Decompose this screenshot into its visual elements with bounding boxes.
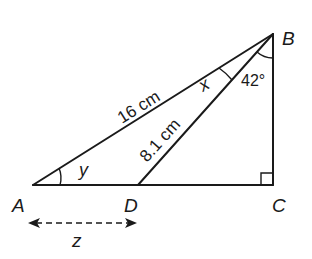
length-label-ab: 16 cm: [114, 87, 163, 128]
angle-label-y: y: [77, 160, 89, 180]
segment-db: [138, 34, 273, 185]
side-ab: [33, 34, 273, 185]
point-label-d: D: [124, 195, 138, 216]
triangle-diagram: B A D C 16 cm 8.1 cm y x 42° z: [0, 0, 312, 259]
length-label-z: z: [71, 230, 82, 251]
right-angle-marker: [261, 173, 273, 185]
angle-label-42: 42°: [241, 72, 265, 89]
point-label-c: C: [272, 195, 286, 216]
point-label-a: A: [11, 195, 25, 216]
point-label-b: B: [282, 28, 295, 49]
angle-arc-x: [219, 68, 232, 80]
angle-arc-42: [257, 52, 273, 58]
angle-label-x: x: [194, 73, 214, 96]
angle-arc-a: [59, 168, 61, 185]
